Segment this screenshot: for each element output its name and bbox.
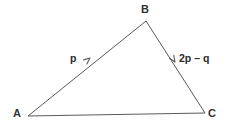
triangle-side-ac <box>28 113 205 116</box>
vertex-label-b: B <box>141 4 149 15</box>
triangle-side-bc <box>146 21 205 113</box>
vertex-label-a: A <box>13 108 21 119</box>
arrowhead-bc-icon <box>169 55 177 63</box>
triangle-geometry <box>0 0 228 133</box>
triangle-side-ab <box>28 21 146 116</box>
vector-label-p: p <box>70 53 76 64</box>
vector-triangle-diagram: A B C p 2p – q <box>0 0 228 133</box>
vertex-label-c: C <box>208 108 216 119</box>
vector-label-2p-minus-q: 2p – q <box>179 53 209 64</box>
arrowhead-ab-icon <box>84 56 92 64</box>
